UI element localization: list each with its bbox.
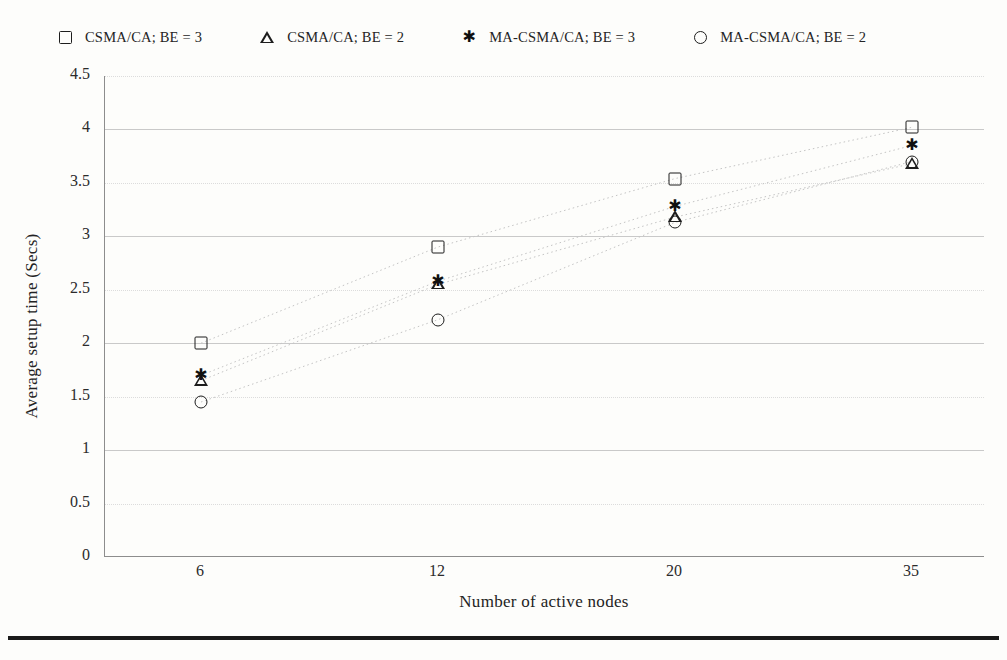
x-axis-tick-label: 35 xyxy=(903,562,919,580)
legend-item-ma-csma-ca-be3[interactable]: ✱ MA-CSMA/CA; BE = 3 xyxy=(458,26,635,48)
star-marker-icon: ✱ xyxy=(668,199,682,213)
gridline xyxy=(105,236,984,237)
y-axis-title: Average setup time (Secs) xyxy=(22,146,42,506)
chart-legend: CSMA/CA; BE = 3 CSMA/CA; BE = 2 ✱ MA-CSM… xyxy=(54,24,984,50)
trend-line xyxy=(201,162,912,403)
star-marker-icon: ✱ xyxy=(458,26,480,48)
legend-label: MA-CSMA/CA; BE = 3 xyxy=(489,29,635,46)
gridline xyxy=(105,450,984,451)
y-axis-tick-label: 4.5 xyxy=(4,65,90,83)
star-marker-icon: ✱ xyxy=(431,274,445,288)
trend-connector-lines xyxy=(105,76,985,557)
x-axis-title: Number of active nodes xyxy=(104,592,984,612)
figure-bottom-rule xyxy=(8,636,999,640)
data-point-circle xyxy=(669,216,682,229)
square-marker-icon xyxy=(906,121,919,134)
data-point-star: ✱ xyxy=(431,274,445,288)
star-marker-icon: ✱ xyxy=(905,138,919,152)
x-axis-tick-label: 20 xyxy=(666,562,682,580)
data-point-circle xyxy=(432,313,445,326)
gridline xyxy=(105,129,984,130)
figure-container: CSMA/CA; BE = 3 CSMA/CA; BE = 2 ✱ MA-CSM… xyxy=(0,0,1007,660)
legend-label: MA-CSMA/CA; BE = 2 xyxy=(720,29,866,46)
x-axis-tick-label: 12 xyxy=(429,562,445,580)
legend-item-csma-ca-be2[interactable]: CSMA/CA; BE = 2 xyxy=(256,26,404,48)
y-axis-tick-labels: 4.543.532.521.510.50 xyxy=(0,0,104,660)
gridline xyxy=(105,504,984,505)
circle-marker-icon xyxy=(689,26,711,48)
data-point-circle xyxy=(906,155,919,168)
y-axis-tick-label: 3.5 xyxy=(4,172,90,190)
y-axis-tick-label: 2 xyxy=(4,332,90,350)
y-axis-tick-label: 3 xyxy=(4,225,90,243)
plot-area: ✱✱✱✱ xyxy=(104,76,984,557)
y-axis-tick-label: 1 xyxy=(4,439,90,457)
y-axis-tick-label: 2.5 xyxy=(4,279,90,297)
data-point-square xyxy=(195,337,208,350)
trend-line xyxy=(201,164,912,381)
data-point-square xyxy=(669,172,682,185)
star-marker-icon: ✱ xyxy=(194,368,208,382)
legend-item-ma-csma-ca-be2[interactable]: MA-CSMA/CA; BE = 2 xyxy=(689,26,866,48)
trend-line xyxy=(201,127,912,343)
gridline xyxy=(105,290,984,291)
x-axis-tick-labels: 6122035 xyxy=(104,562,984,588)
gridline xyxy=(105,76,984,77)
data-point-star: ✱ xyxy=(905,138,919,152)
gridline xyxy=(105,183,984,184)
circle-marker-icon xyxy=(195,396,208,409)
y-axis-tick-label: 4 xyxy=(4,118,90,136)
y-axis-tick-label: 0 xyxy=(4,546,90,564)
x-axis-tick-label: 6 xyxy=(196,562,204,580)
circle-marker-icon xyxy=(669,216,682,229)
square-marker-icon xyxy=(195,337,208,350)
gridline xyxy=(105,397,984,398)
trend-line xyxy=(201,146,912,376)
triangle-marker-icon xyxy=(256,26,278,48)
data-point-star: ✱ xyxy=(668,199,682,213)
data-point-star: ✱ xyxy=(194,368,208,382)
circle-marker-icon xyxy=(432,313,445,326)
data-point-square xyxy=(432,241,445,254)
y-axis-tick-label: 1.5 xyxy=(4,386,90,404)
data-point-circle xyxy=(195,396,208,409)
gridline xyxy=(105,343,984,344)
circle-marker-icon xyxy=(906,155,919,168)
square-marker-icon xyxy=(432,241,445,254)
square-marker-icon xyxy=(669,172,682,185)
y-axis-tick-label: 0.5 xyxy=(4,493,90,511)
data-point-square xyxy=(906,121,919,134)
legend-label: CSMA/CA; BE = 2 xyxy=(287,29,404,46)
